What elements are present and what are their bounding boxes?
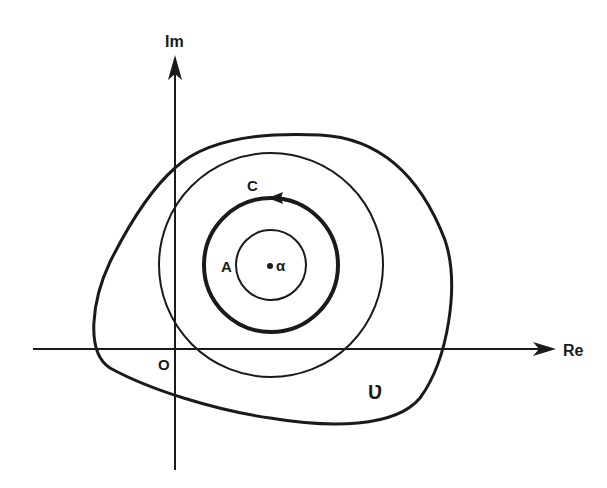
origin-label: O bbox=[158, 356, 170, 373]
point-alpha-dot bbox=[267, 263, 273, 269]
imaginary-axis bbox=[168, 55, 182, 470]
contour-c-label: C bbox=[247, 177, 258, 194]
real-axis bbox=[33, 342, 556, 356]
disk-a-label: A bbox=[221, 258, 232, 275]
real-axis-label: Re bbox=[563, 342, 584, 359]
region-label: Ʋ bbox=[368, 381, 382, 403]
complex-plane-diagram: Im Re O C A α Ʋ bbox=[0, 0, 607, 488]
region-boundary bbox=[94, 134, 452, 424]
contour-direction-arrow-icon bbox=[268, 192, 283, 204]
imaginary-axis-label: Im bbox=[165, 33, 184, 50]
point-alpha-label: α bbox=[276, 257, 286, 274]
